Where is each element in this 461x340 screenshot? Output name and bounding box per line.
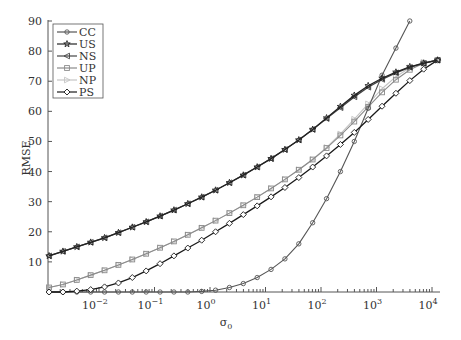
x-tick-label: 102 [307,297,326,312]
data-point-marker [102,284,108,290]
data-point-marker [199,237,205,243]
x-tick-label: 10−1 [138,297,164,312]
data-point-marker [185,245,191,251]
data-point-marker [129,275,135,281]
y-tick-label: 10 [28,256,42,269]
y-tick-label: 80 [28,45,42,58]
legend: CCUSNSUPNPPS [53,24,103,99]
x-tick-label: 103 [363,297,382,312]
x-tick-label: 10−2 [82,297,108,312]
y-tick-label: 20 [28,226,42,239]
data-point-marker [143,268,149,274]
data-point-marker [115,280,121,286]
data-point-marker [60,289,66,295]
y-tick-label: 90 [28,15,42,28]
legend-label: PS [79,86,94,99]
y-tick-label: 60 [28,105,42,118]
data-point-marker [171,253,177,259]
rmse-line-chart: 10203040506070809010−210−110010110210310… [0,0,461,340]
x-tick-label: 101 [252,297,271,312]
y-tick-label: 30 [28,196,42,209]
data-point-marker [157,261,163,267]
series-group [46,19,441,295]
y-axis-title: RMSE [20,140,33,175]
series-ns [46,57,440,258]
x-tick-label: 104 [418,297,437,312]
x-tick-label: 100 [196,297,215,312]
y-tick-label: 70 [28,75,42,88]
data-point-marker [240,212,246,218]
data-point-marker [226,220,232,226]
x-axis-title: σ0 [220,316,233,331]
data-point-marker [213,229,219,235]
